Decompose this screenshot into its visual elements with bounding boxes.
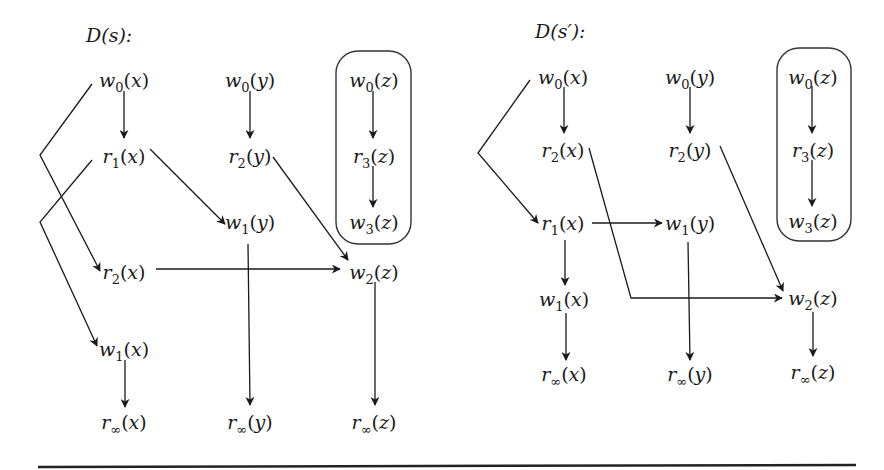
edge-r1x-to-w1x: [40, 160, 97, 346]
graph-title: D(s′):: [534, 20, 586, 42]
node-rinfx: r∞(x): [541, 363, 587, 389]
node-w1y: w1(y): [665, 212, 715, 238]
node-w3z: w3(z): [788, 210, 837, 236]
node-r2y: r2(y): [669, 139, 712, 165]
node-w1x: w1(x): [539, 288, 589, 314]
node-rinfx: r∞(x): [101, 411, 147, 437]
node-r2x: r2(x): [542, 139, 585, 165]
node-rinfy: r∞(y): [667, 363, 713, 389]
edge-w1y-to-rinfy: [248, 244, 250, 405]
node-rinfz: r∞(z): [352, 411, 397, 437]
node-r1x: r1(x): [542, 212, 585, 238]
node-r3z: r3(z): [353, 145, 395, 171]
node-w2z: w2(z): [349, 261, 398, 287]
bottom-divider-rule: [38, 465, 856, 467]
graph-D-s: D(s):w0(x)r1(x)r2(x)w1(x)r∞(x)w0(y)r2(y)…: [40, 24, 411, 437]
node-w1y: w1(y): [225, 211, 275, 237]
node-w3z: w3(z): [349, 211, 398, 237]
node-r3z: r3(z): [792, 139, 834, 165]
dependency-graphs-figure: D(s):w0(x)r1(x)r2(x)w1(x)r∞(x)w0(y)r2(y)…: [0, 0, 884, 470]
edge-w1y-to-rinfy: [688, 242, 690, 360]
node-w2z: w2(z): [788, 287, 837, 313]
node-r2x: r2(x): [103, 261, 146, 287]
node-w0x: w0(x): [538, 66, 588, 92]
node-rinfy: r∞(y): [227, 411, 273, 437]
graph-D-s-prime: D(s′):w0(x)r2(x)r1(x)w1(x)r∞(x)w0(y)r2(y…: [478, 20, 851, 389]
edge-r2y-to-w2z: [273, 157, 348, 260]
edge-r1x-to-w1y: [150, 149, 225, 224]
node-r2y: r2(y): [229, 145, 272, 171]
edge-w0x-to-r1x: [478, 80, 538, 223]
node-w1x: w1(x): [99, 338, 149, 364]
node-w0z: w0(z): [788, 66, 837, 92]
node-rinfz: r∞(z): [791, 361, 836, 387]
node-r1x: r1(x): [103, 145, 146, 171]
node-w0z: w0(z): [349, 69, 398, 95]
edge-r2y-to-w2z: [720, 146, 783, 291]
graph-title: D(s):: [85, 24, 132, 46]
